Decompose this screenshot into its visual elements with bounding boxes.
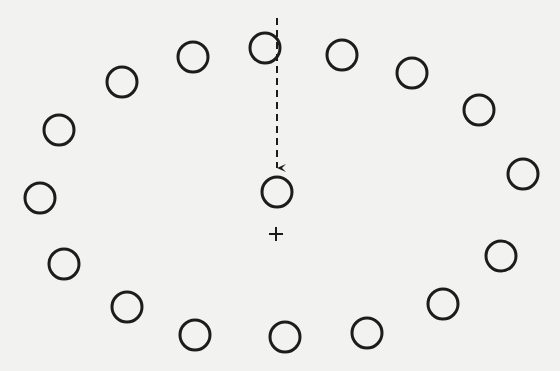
outer-circle-3 [397,58,427,88]
circle-ring-diagram [0,0,560,371]
outer-circle-1 [250,33,280,63]
outer-circle-5 [508,159,538,189]
outer-circle-7 [428,289,458,319]
center-circle [262,177,292,207]
outer-circle-2 [327,40,357,70]
outer-circle-6 [486,241,516,271]
outer-circle-10 [180,320,210,350]
diagram-canvas [0,0,560,371]
outer-circle-14 [44,115,74,145]
outer-circle-13 [25,183,55,213]
outer-circle-12 [49,249,79,279]
plus-marker-icon [269,227,283,241]
outer-circle-ring [25,33,538,352]
outer-circle-8 [352,318,382,348]
outer-circle-16 [178,42,208,72]
outer-circle-15 [107,67,137,97]
outer-circle-9 [270,322,300,352]
outer-circle-4 [464,95,494,125]
outer-circle-11 [112,292,142,322]
